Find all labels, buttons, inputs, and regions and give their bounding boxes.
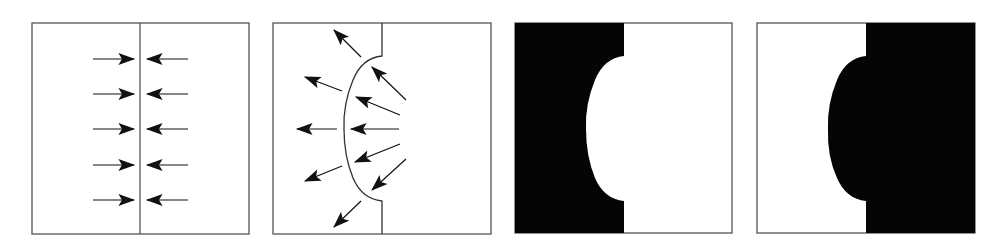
panel-3 bbox=[515, 23, 732, 233]
panel-4 bbox=[757, 23, 975, 233]
panel-1 bbox=[32, 23, 249, 234]
figure-canvas bbox=[0, 0, 1002, 246]
panel-2 bbox=[273, 23, 491, 234]
